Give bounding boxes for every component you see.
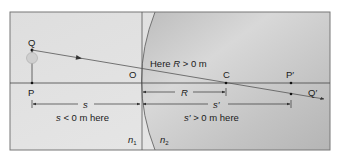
optics-diagram: Q P O C P′ Q′ Here R > 0 m R s s < 0 m h… <box>0 0 338 159</box>
label-P-prime: P′ <box>286 69 294 80</box>
label-Q-prime: Q′ <box>308 87 317 98</box>
label-s: s <box>83 99 88 110</box>
label-Q: Q <box>28 37 35 48</box>
label-R: R <box>181 87 188 98</box>
label-P: P <box>28 87 34 98</box>
diagram-canvas: Q P O C P′ Q′ Here R > 0 m R s s < 0 m h… <box>0 0 338 159</box>
object-source-icon <box>27 53 38 64</box>
point-Q-prime <box>290 93 293 96</box>
point-P-prime <box>290 82 293 85</box>
label-O: O <box>129 69 136 80</box>
medium-n2-region <box>142 12 331 150</box>
point-C <box>225 82 228 85</box>
s-prime-note: s′ > 0 m here <box>184 112 239 123</box>
radius-note: Here R > 0 m <box>150 58 207 69</box>
point-P <box>31 82 34 85</box>
label-C: C <box>223 69 230 80</box>
s-note: s < 0 m here <box>56 112 109 123</box>
